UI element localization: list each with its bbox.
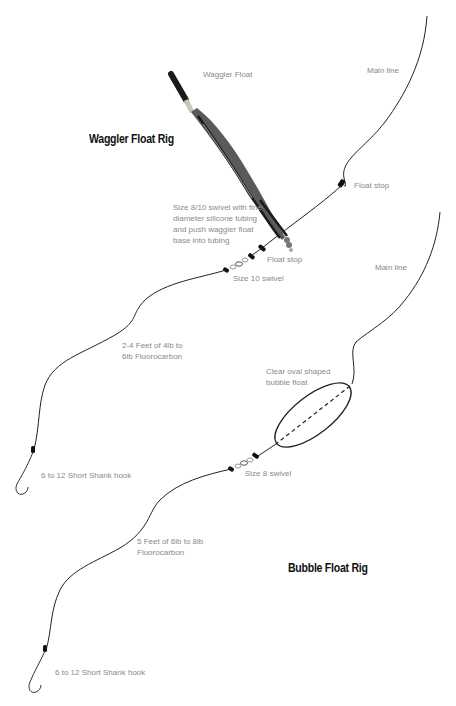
- bubble-hook-label: 6 to 12 Short Shank hook: [55, 667, 145, 678]
- waggler-float-label: Waggler Float: [203, 69, 253, 80]
- bubble-leader-line: [46, 469, 231, 650]
- waggler-swivel-icon: [230, 258, 248, 269]
- waggler-hook-label: 6 to 12 Short Shank hook: [41, 470, 131, 481]
- waggler-leader-label-2: 6lb Fluorocarbon: [122, 351, 182, 362]
- bubble-float-label-1: Clear oval shaped: [266, 366, 330, 377]
- bubble-swivel-icon: [235, 458, 253, 468]
- waggler-upper-float-stop-label: Float stop: [354, 180, 389, 191]
- waggler-main-line: [342, 16, 427, 186]
- bubble-hook-icon: [29, 651, 45, 692]
- waggler-lower-float-stop-label: Float stop: [267, 254, 302, 265]
- bubble-hook-knot: [43, 645, 47, 652]
- rig-diagram-canvas: [0, 0, 456, 706]
- bubble-main-line-label: Main line: [375, 262, 407, 273]
- waggler-leader-label-1: 2-4 Feet of 4lb to: [122, 340, 182, 351]
- bubble-rig-title: Bubble Float Rig: [288, 561, 368, 575]
- waggler-hook-knot: [31, 446, 35, 453]
- waggler-rig-title: Waggler Float Rig: [89, 132, 174, 146]
- waggler-swivel-label: Size 10 swivel: [233, 273, 284, 284]
- bubble-leader-label-1: 5 Feet of 6lb to 8lb: [137, 536, 203, 547]
- bubble-swivel-label: Size 8 swivel: [245, 468, 291, 479]
- bubble-float-inner-dashed: [276, 386, 350, 444]
- waggler-hook-icon: [16, 452, 33, 494]
- bubble-float-label-2: bubble float: [266, 377, 307, 388]
- waggler-main-line-label: Main line: [367, 65, 399, 76]
- bubble-leader-label-2: Fluorocarbon: [137, 547, 184, 558]
- bubble-main-line: [352, 212, 440, 384]
